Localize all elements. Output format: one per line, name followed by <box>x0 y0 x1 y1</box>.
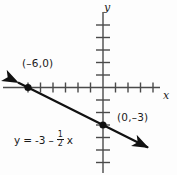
equation-variable: x <box>67 135 73 146</box>
x-axis-label: x <box>163 90 169 101</box>
graph-figure: y x (–6,0) (0,–3) y = -3 – 1 2 x <box>0 0 177 175</box>
point-y-intercept <box>99 121 106 128</box>
equation-operator: – <box>49 135 54 146</box>
fraction-denominator: 2 <box>57 139 64 148</box>
equation-lhs: y <box>14 135 20 146</box>
point-x-intercept <box>24 84 31 91</box>
label-x-intercept: (–6,0) <box>22 58 53 69</box>
equation-term1: -3 <box>35 135 45 146</box>
fraction-numerator: 1 <box>57 131 64 139</box>
label-y-intercept: (0,–3) <box>117 112 148 123</box>
equation-fraction: 1 2 <box>57 131 64 149</box>
y-axis <box>96 12 110 173</box>
y-axis-label: y <box>104 2 110 13</box>
equation-label: y = -3 – 1 2 x <box>14 131 73 149</box>
equation-equals: = <box>23 135 32 146</box>
